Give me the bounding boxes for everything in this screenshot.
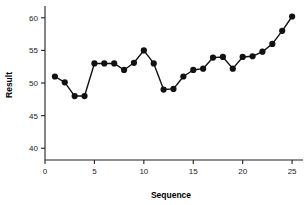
data-point (101, 60, 107, 66)
y-tick-label: 60 (29, 14, 38, 23)
data-point (269, 41, 275, 47)
y-axis-title: Result (4, 72, 14, 98)
data-point (72, 93, 78, 99)
chart-container: 4045505560 0510152025 Sequence Result (0, 0, 308, 205)
data-point (91, 60, 97, 66)
data-point (52, 73, 58, 79)
x-axis-title: Sequence (151, 190, 191, 200)
data-point (121, 67, 127, 73)
data-point (200, 66, 206, 72)
data-point (62, 79, 68, 85)
x-tick-label: 10 (139, 167, 148, 176)
data-point (210, 54, 216, 60)
y-tick-label: 55 (29, 46, 38, 55)
data-point (289, 13, 295, 19)
x-tick-label: 25 (288, 167, 297, 176)
y-axis: 4045505560 (29, 6, 45, 160)
x-tick-label: 20 (238, 167, 247, 176)
y-tick-label: 40 (29, 144, 38, 153)
x-tick-label: 0 (43, 167, 48, 176)
data-point (279, 28, 285, 34)
data-point (249, 53, 255, 59)
data-point (161, 86, 167, 92)
data-series (52, 13, 295, 99)
x-axis: 0510152025 (43, 160, 303, 176)
series-line (55, 16, 292, 96)
data-point (141, 47, 147, 53)
x-tick-label: 5 (92, 167, 97, 176)
data-point (259, 49, 265, 55)
data-point (170, 86, 176, 92)
data-point (220, 54, 226, 60)
data-point (111, 60, 117, 66)
y-tick-label: 45 (29, 112, 38, 121)
data-point (151, 60, 157, 66)
data-point (190, 67, 196, 73)
data-point (230, 66, 236, 72)
data-point (81, 93, 87, 99)
data-point (240, 54, 246, 60)
x-tick-label: 15 (189, 167, 198, 176)
y-tick-label: 50 (29, 79, 38, 88)
data-point (131, 60, 137, 66)
data-point (180, 73, 186, 79)
line-chart: 4045505560 0510152025 Sequence Result (0, 0, 308, 205)
